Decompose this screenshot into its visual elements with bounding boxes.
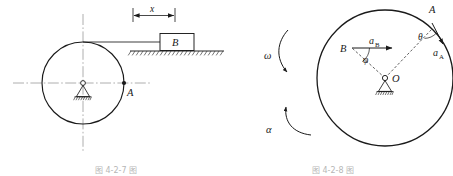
figure-sheet: A B <box>0 0 453 176</box>
vector-accel-a <box>432 23 443 44</box>
label-angle-theta: θ <box>418 32 423 42</box>
svg-text:B: B <box>375 41 380 48</box>
pin-support-right: O <box>376 73 400 95</box>
caption-right: 图 4-2-8 图 <box>312 166 354 175</box>
alpha-arrow <box>286 107 311 135</box>
label-angle-phi: φ <box>363 55 368 65</box>
svg-text:A: A <box>439 53 444 60</box>
label-accel-a: a A <box>433 47 444 60</box>
ground-hatching-left <box>128 51 224 55</box>
svg-text:a: a <box>433 47 438 58</box>
figure-left: A B <box>13 4 224 176</box>
figure-right: O A a A θ B a B φ ω α 图 4-2-8 图 <box>264 4 453 175</box>
label-block-b: B <box>172 37 179 48</box>
label-point-a-right: A <box>428 4 436 15</box>
angle-theta-arc <box>425 33 437 38</box>
point-a-marker-left <box>122 81 126 85</box>
label-omega: ω <box>264 50 271 61</box>
label-dimension-x: x <box>149 4 155 14</box>
svg-text:a: a <box>369 35 374 46</box>
label-alpha: α <box>266 124 272 135</box>
radius-oa <box>385 29 432 78</box>
label-point-a-left: A <box>126 87 134 98</box>
caption-left: 图 4-2-7 图 <box>95 166 137 175</box>
label-point-b: B <box>340 43 347 54</box>
label-accel-b: a B <box>369 35 380 48</box>
pin-support-left <box>74 81 92 101</box>
label-center-o: O <box>392 73 400 84</box>
omega-arrow <box>279 30 288 72</box>
dimension-x: x <box>133 4 175 23</box>
